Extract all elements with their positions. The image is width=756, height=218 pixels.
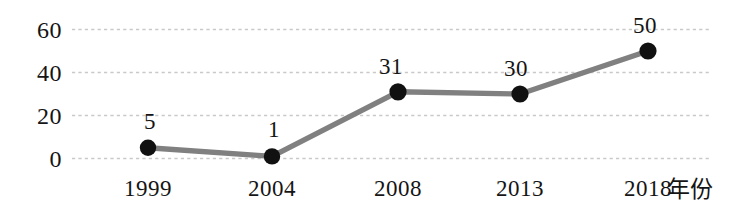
y-tick-label-40: 40 — [18, 61, 62, 85]
y-tick-label-60: 60 — [18, 18, 62, 42]
x-tick-label-2013: 2013 — [496, 176, 544, 202]
y-tick-label-0: 0 — [18, 147, 62, 171]
data-label-1999: 5 — [144, 110, 156, 134]
data-label-2008: 31 — [379, 55, 403, 79]
x-tick-label-1999: 1999 — [124, 176, 172, 202]
x-axis: 1999 2004 2008 2013 2018 — [0, 176, 756, 208]
data-label-2018: 50 — [633, 14, 657, 38]
x-tick-label-2008: 2008 — [374, 176, 422, 202]
y-tick-label-20: 20 — [18, 104, 62, 128]
x-axis-title: 年份 — [667, 176, 713, 202]
data-point-2004 — [264, 148, 280, 164]
data-point-2013 — [511, 85, 528, 102]
data-point-1999 — [140, 140, 156, 156]
x-tick-label-2018: 2018 — [624, 176, 672, 202]
data-label-2013: 30 — [504, 57, 528, 81]
data-label-2004: 1 — [268, 118, 280, 142]
data-point-2018 — [639, 42, 656, 59]
data-point-2008 — [389, 83, 406, 100]
line-chart: 5 1 31 30 50 60 40 20 0 1999 2004 2008 2… — [0, 0, 756, 218]
x-tick-label-2004: 2004 — [248, 176, 296, 202]
